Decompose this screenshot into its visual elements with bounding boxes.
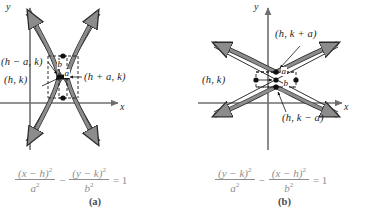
vertex-bottom-point (273, 84, 278, 89)
equation-equals: = 1 (310, 174, 330, 186)
panel-a-caption: (a) (0, 196, 190, 207)
fraction-2: (y − k)2 b2 (69, 166, 109, 193)
label-center: (h, k) (4, 74, 27, 85)
label-semi-axis-a: a (64, 69, 70, 78)
denominator-1: a2 (227, 180, 242, 193)
label-vertex-right: (h + a, k) (84, 71, 126, 82)
y-axis-label: y (254, 1, 258, 12)
label-semi-axis-a: a (281, 67, 287, 76)
denominator-1: a2 (28, 180, 43, 193)
numerator-1: (y − k)2 (215, 166, 255, 179)
numerator-2: (y − k)2 (69, 166, 109, 179)
fraction-2: (x − h)2 b2 (269, 166, 309, 193)
panel-a: (h − a, k) (h, k) (h + a, k) b a y x (x … (0, 0, 190, 219)
x-axis-label: x (344, 101, 348, 112)
center-point (273, 77, 278, 82)
lower-rect-point (60, 95, 65, 100)
label-vertex-top: (h, k + a) (275, 28, 317, 39)
numerator-2: (x − h)2 (269, 166, 309, 179)
upper-rect-point (60, 53, 65, 58)
figure-root: (h − a, k) (h, k) (h + a, k) b a y x (x … (0, 0, 379, 219)
label-center: (h, k) (202, 74, 225, 85)
label-semi-axis-b: b (283, 79, 289, 88)
equation-operator: − (56, 174, 68, 186)
denominator-2: b2 (281, 180, 296, 193)
numerator-1: (x − h)2 (15, 166, 55, 179)
right-rect-point (293, 77, 298, 82)
panel-b-caption: (b) (190, 196, 379, 207)
page-bottom-fragment (3, 210, 73, 216)
fraction-1: (x − h)2 a2 (15, 166, 55, 193)
label-semi-axis-b: b (57, 60, 63, 69)
panel-b-equation: (y − k)2 a2 − (x − h)2 b2 = 1 (214, 166, 330, 193)
equation-operator: − (256, 174, 268, 186)
denominator-2: b2 (82, 180, 97, 193)
vertex-top-point (273, 69, 278, 74)
panel-b: (h, k + a) (h, k) (h, k − a) a b y x (y … (190, 0, 379, 219)
x-axis-label: x (120, 101, 124, 112)
fraction-1: (y − k)2 a2 (215, 166, 255, 193)
panel-a-equation: (x − h)2 a2 − (y − k)2 b2 = 1 (14, 166, 130, 193)
label-vertex-left: (h − a, k) (1, 56, 43, 67)
y-axis-label: y (6, 1, 10, 12)
label-vertex-bottom: (h, k − a) (282, 112, 324, 123)
equation-equals: = 1 (110, 174, 130, 186)
